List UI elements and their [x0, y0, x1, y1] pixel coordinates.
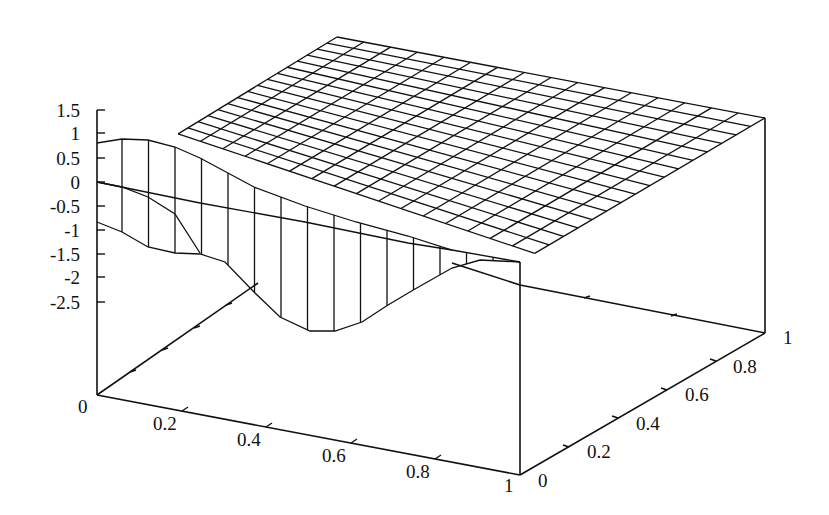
z-label: 1.5 [56, 100, 80, 121]
y-ticks [130, 296, 716, 447]
x-label: 0.8 [406, 461, 430, 482]
back-right-base-edge [452, 263, 765, 333]
y-label: 1 [783, 327, 793, 348]
plot-canvas: 1.5 1 0.5 0 -0.5 -1 -1.5 -2 -2.5 0 0.2 0… [0, 0, 829, 515]
z-label: -2 [64, 267, 80, 288]
z-label: -0.5 [50, 196, 80, 217]
y-label: 0.2 [587, 441, 611, 462]
x-label: 1 [504, 475, 514, 496]
y-tick-labels: 0 0.2 0.4 0.6 0.8 1 [538, 327, 793, 491]
z-tick-labels: 1.5 1 0.5 0 -0.5 -1 -1.5 -2 -2.5 [50, 100, 80, 313]
x-axis [97, 395, 520, 475]
y-label: 0.8 [733, 356, 757, 377]
base-box [97, 110, 765, 475]
x-ticks [182, 407, 441, 459]
y-label: 0.4 [636, 413, 660, 434]
z-label: -1 [64, 220, 80, 241]
z-label: 0 [71, 172, 81, 193]
x-label: 0.4 [237, 429, 261, 450]
back-left-base-edge [97, 283, 258, 395]
y-label: 0.6 [685, 384, 709, 405]
y-label: 0 [538, 470, 548, 491]
z-label: -2.5 [50, 292, 80, 313]
y-axis [520, 333, 765, 475]
surface-plot: 1.5 1 0.5 0 -0.5 -1 -1.5 -2 -2.5 0 0.2 0… [0, 0, 829, 515]
z-ticks [97, 110, 105, 302]
z-label: 1 [71, 123, 81, 144]
x-tick-labels: 0 0.2 0.4 0.6 0.8 1 [78, 396, 514, 496]
z-label: 0.5 [56, 148, 80, 169]
x-label: 0 [78, 396, 88, 417]
surface-mesh [178, 37, 765, 253]
x-label: 0.2 [153, 413, 177, 434]
x-label: 0.6 [322, 445, 346, 466]
z-label: -1.5 [50, 244, 80, 265]
